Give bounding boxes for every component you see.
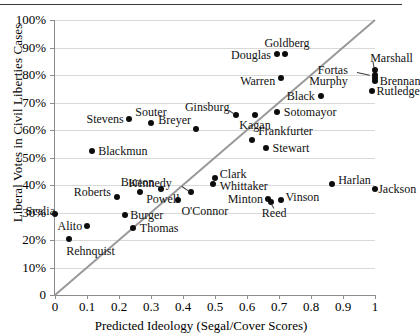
x-tick-label: 0	[52, 299, 59, 315]
x-tick-label: 0.6	[239, 299, 255, 315]
x-tick-label: 0.9	[335, 299, 351, 315]
data-point-label: Burger	[130, 209, 163, 221]
data-point-label: Ginsburg	[185, 101, 229, 113]
data-point-label: Stevens	[86, 113, 123, 125]
data-point[interactable]	[369, 88, 375, 94]
data-point[interactable]	[122, 212, 128, 218]
y-tick-label: 0	[40, 287, 47, 303]
x-tick-label: 0.7	[271, 299, 287, 315]
y-tick-mark	[50, 268, 54, 269]
data-point[interactable]	[282, 51, 288, 57]
data-point-label: Thomas	[140, 222, 179, 234]
data-point-label: Vinson	[285, 191, 319, 203]
data-point[interactable]	[175, 197, 181, 203]
y-tick-mark	[50, 75, 54, 76]
x-tick-label: 0.5	[207, 299, 223, 315]
data-point-label: Harlan	[338, 174, 371, 186]
data-point-label: Whittaker	[220, 180, 268, 192]
data-point-label: Clark	[220, 168, 247, 180]
y-axis-title: Liberal Votes in Civil Liberties Cases	[10, 0, 26, 263]
data-point[interactable]	[252, 112, 258, 118]
x-axis-title: Predicted Ideology (Segal/Cover Scores)	[0, 318, 402, 334]
y-tick-mark	[50, 158, 54, 159]
data-point[interactable]	[126, 116, 132, 122]
x-tick-label: 0.4	[175, 299, 191, 315]
data-point[interactable]	[130, 225, 136, 231]
data-point[interactable]	[89, 148, 95, 154]
data-point-label: Warren	[240, 75, 275, 87]
data-point[interactable]	[372, 75, 378, 81]
data-point-label: Rehnquist	[66, 245, 115, 257]
data-point-label: Frankfurter	[258, 125, 313, 137]
data-point-label: Kennedy	[128, 177, 171, 189]
data-point-label: Sotomayor	[284, 106, 337, 118]
data-point[interactable]	[329, 181, 335, 187]
x-tick-label: 0.8	[303, 299, 319, 315]
y-tick-mark	[50, 48, 54, 49]
x-tick-label: 0.3	[143, 299, 159, 315]
y-tick-mark	[50, 103, 54, 104]
x-tick-label: 0.2	[111, 299, 127, 315]
data-point-label: Scalia	[26, 205, 55, 217]
data-point[interactable]	[148, 120, 154, 126]
data-point[interactable]	[278, 197, 284, 203]
x-tick-label: 0.1	[79, 299, 95, 315]
y-tick-mark	[50, 185, 54, 186]
data-point[interactable]	[263, 145, 269, 151]
data-point-label: Minton	[228, 193, 263, 205]
x-tick-label: 1	[372, 299, 379, 315]
data-point[interactable]	[249, 137, 255, 143]
data-point-label: Murphy	[309, 75, 348, 87]
data-point-label: O'Connor	[181, 205, 228, 217]
data-point-label: Roberts	[74, 186, 111, 198]
y-tick-mark	[50, 295, 54, 296]
data-point-label: Alito	[58, 220, 83, 232]
data-point[interactable]	[274, 51, 280, 57]
data-point[interactable]	[193, 126, 199, 132]
data-point-label: Marshall	[370, 52, 413, 64]
y-tick-mark	[50, 20, 54, 21]
top-rule	[0, 4, 402, 5]
data-point[interactable]	[210, 181, 216, 187]
data-point-label: Jackson	[378, 183, 416, 195]
y-tick-mark	[50, 130, 54, 131]
data-point[interactable]	[318, 93, 324, 99]
data-point-label: Rutledge	[377, 85, 420, 97]
data-point-label: Stewart	[273, 142, 310, 154]
data-point-label: Goldberg	[264, 37, 309, 49]
data-point[interactable]	[274, 109, 280, 115]
data-point-label: Black	[287, 90, 315, 102]
data-point[interactable]	[84, 223, 90, 229]
data-point-label: Breyer	[158, 114, 191, 126]
data-point[interactable]	[372, 186, 378, 192]
data-point[interactable]	[66, 236, 72, 242]
data-point[interactable]	[278, 75, 284, 81]
data-point-label: Blackmun	[98, 145, 147, 157]
data-point-label: Douglas	[231, 49, 271, 61]
data-point[interactable]	[372, 67, 378, 73]
data-point[interactable]	[114, 194, 120, 200]
y-tick-mark	[50, 240, 54, 241]
